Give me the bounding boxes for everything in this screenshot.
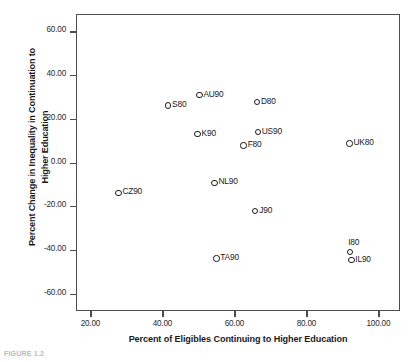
data-point-label: S80 bbox=[172, 99, 186, 109]
circle-marker-icon bbox=[255, 129, 261, 135]
y-axis-tick-label: -40.00 bbox=[44, 244, 66, 253]
circle-marker-icon bbox=[346, 140, 352, 146]
y-axis-tick-label: 0.00 bbox=[51, 157, 66, 166]
data-point-label: IL90 bbox=[355, 254, 371, 264]
x-axis-tick-label: 100.00 bbox=[354, 319, 402, 328]
data-point-label: F80 bbox=[248, 139, 262, 149]
data-point-label: AU90 bbox=[203, 89, 223, 99]
data-point-label: CZ90 bbox=[122, 186, 142, 196]
data-point-label: I80 bbox=[348, 237, 359, 247]
y-axis-title-line1: Percent Change in Inequality in Continua… bbox=[27, 48, 37, 246]
x-axis-tick-label: 40.00 bbox=[138, 319, 186, 328]
x-axis-tick-label: 20.00 bbox=[66, 319, 114, 328]
x-axis-tick-mark bbox=[378, 311, 379, 317]
scatter-plot-figure: Percent Change in Inequality in Continua… bbox=[0, 0, 417, 362]
data-point-label: UK80 bbox=[354, 137, 374, 147]
data-point-label: US90 bbox=[262, 126, 282, 136]
x-axis-tick-mark bbox=[234, 311, 235, 317]
circle-marker-icon bbox=[240, 142, 246, 148]
circle-marker-icon bbox=[254, 99, 260, 105]
circle-marker-icon bbox=[194, 131, 200, 137]
data-point-label: D80 bbox=[261, 96, 276, 106]
circle-marker-icon bbox=[211, 180, 217, 186]
data-point-label: J90 bbox=[259, 205, 272, 215]
x-axis-title: Percent of Eligibles Continuing to Highe… bbox=[76, 334, 400, 344]
x-axis-tick-mark bbox=[306, 311, 307, 317]
data-point-label: K90 bbox=[202, 128, 216, 138]
y-axis-tick-label: 60.00 bbox=[47, 25, 67, 34]
circle-marker-icon bbox=[348, 257, 354, 263]
x-axis-tick-label: 80.00 bbox=[282, 319, 330, 328]
y-axis-tick-label: -60.00 bbox=[44, 288, 66, 297]
y-axis-tick-label: -20.00 bbox=[44, 200, 66, 209]
circle-marker-icon bbox=[115, 190, 121, 196]
circle-marker-icon bbox=[196, 92, 202, 98]
circle-marker-icon bbox=[347, 249, 353, 255]
data-point-label: NL90 bbox=[219, 176, 238, 186]
x-axis-tick-mark bbox=[90, 311, 91, 317]
circle-marker-icon bbox=[252, 208, 258, 214]
y-axis-tick-label: 40.00 bbox=[47, 69, 67, 78]
plot-area: AU90D80S80US90K90UK80F80NL90CZ90J90I80TA… bbox=[76, 14, 400, 311]
y-axis-tick-label: 20.00 bbox=[47, 113, 67, 122]
x-axis-tick-label: 60.00 bbox=[210, 319, 258, 328]
data-point-label: TA90 bbox=[220, 252, 239, 262]
circle-marker-icon bbox=[165, 102, 171, 108]
figure-caption: FIGURE 1.2 bbox=[4, 350, 44, 357]
circle-marker-icon bbox=[213, 255, 219, 261]
x-axis-tick-mark bbox=[162, 311, 163, 317]
